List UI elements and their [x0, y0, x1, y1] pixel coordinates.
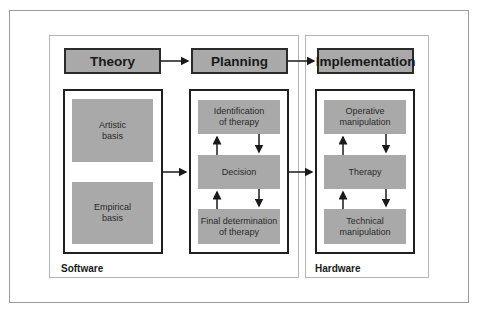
- connector-arrows: [0, 0, 478, 311]
